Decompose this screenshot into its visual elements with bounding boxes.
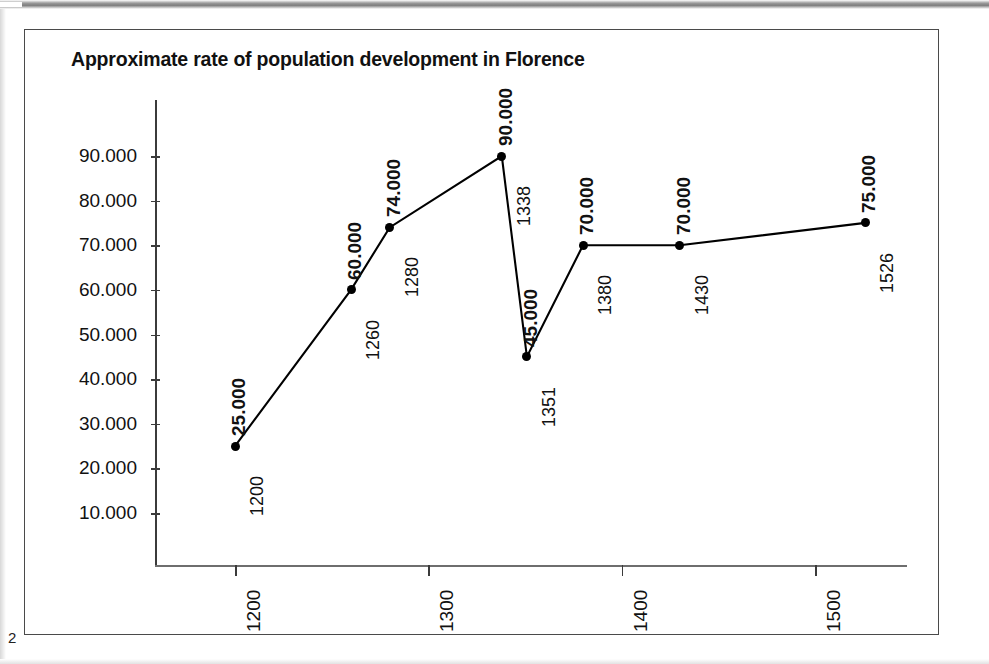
data-point-value-label: 25.000 <box>228 378 250 436</box>
data-point-marker[interactable] <box>579 241 588 250</box>
data-point-value-label: 75.000 <box>858 155 880 213</box>
scan-bottom-edge <box>0 659 989 664</box>
series-line <box>25 30 940 636</box>
data-point-year-label: 1338 <box>514 186 535 226</box>
data-point-year-label: 1430 <box>692 275 713 315</box>
data-point-year-label: 1280 <box>402 257 423 297</box>
data-point-value-label: 60.000 <box>344 222 366 280</box>
data-point-marker[interactable] <box>385 223 394 232</box>
data-point-value-label: 90.000 <box>495 88 517 146</box>
data-point-value-label: 70.000 <box>673 177 695 235</box>
data-point-marker[interactable] <box>231 442 240 451</box>
scan-top-edge <box>0 0 989 9</box>
line-chart-plot-area: 10.00020.00030.00040.00050.00060.00070.0… <box>25 30 940 636</box>
data-point-value-label: 74.000 <box>383 159 405 217</box>
data-point-year-label: 1526 <box>877 253 898 293</box>
data-point-marker[interactable] <box>347 285 356 294</box>
page-number: 2 <box>8 629 16 646</box>
scan-left-edge <box>0 9 6 664</box>
data-point-year-label: 1351 <box>539 387 560 427</box>
figure-frame: Approximate rate of population developme… <box>24 29 939 635</box>
data-point-year-label: 1200 <box>247 476 268 516</box>
data-point-year-label: 1380 <box>595 275 616 315</box>
data-point-marker[interactable] <box>675 241 684 250</box>
data-point-value-label: 45.000 <box>520 289 542 347</box>
data-point-marker[interactable] <box>497 152 506 161</box>
data-point-year-label: 1260 <box>363 320 384 360</box>
data-point-value-label: 70.000 <box>576 177 598 235</box>
